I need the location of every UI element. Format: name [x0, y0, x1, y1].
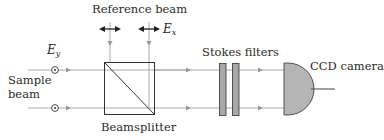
field-ey-label: Ey: [47, 43, 60, 58]
beamsplitter-label: Beamsplitter: [101, 120, 176, 134]
arrowhead-down-icon: [108, 41, 113, 46]
sample-beam-label-line1: Sample: [8, 73, 51, 87]
arrowhead-right-icon: [66, 68, 71, 73]
polarization-dot-icon-upper: [52, 67, 59, 74]
arrowhead-right-icon: [66, 106, 71, 111]
arrowhead-right-icon: [186, 106, 191, 111]
field-ex-subscript: x: [172, 28, 177, 37]
field-ex-base: E: [163, 22, 172, 36]
field-ey-base: E: [47, 43, 56, 57]
arrowhead-down-icon: [147, 41, 152, 46]
arrowhead-right-icon: [258, 106, 263, 111]
stokes-filter-1: [220, 64, 227, 116]
sample-beam-label-line2: beam: [8, 87, 51, 101]
polarization-dot-icon-lower: [52, 105, 59, 112]
reference-beam-lines: [108, 22, 152, 108]
ccd-camera-label: CCD camera: [310, 59, 384, 73]
field-ex-label: Ex: [163, 22, 176, 37]
arrowhead-right-icon: [186, 68, 191, 73]
stokes-filter-2: [233, 64, 240, 116]
reference-beam-label: Reference beam: [92, 2, 187, 16]
stokes-filters-label: Stokes filters: [202, 45, 279, 59]
arrowhead-right-icon: [258, 68, 263, 73]
sample-beam-label: Sample beam: [8, 73, 51, 101]
field-ey-subscript: y: [56, 49, 61, 58]
